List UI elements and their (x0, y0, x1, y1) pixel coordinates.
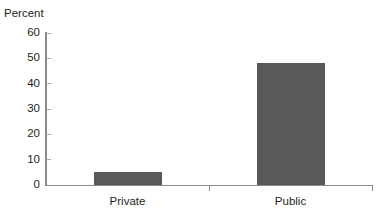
bar (257, 63, 325, 185)
x-tick-mark (209, 186, 210, 191)
y-tick-label: 20 (12, 128, 40, 140)
bar-chart: Percent 0102030405060 PrivatePublic (0, 0, 381, 220)
y-tick-label: 60 (12, 27, 40, 39)
x-tick-label: Public (231, 194, 351, 208)
bar (94, 172, 162, 185)
plot-area (46, 33, 372, 185)
y-tick-label: 10 (12, 154, 40, 166)
x-tick-label: Private (68, 194, 188, 208)
y-tick-label: 30 (12, 103, 40, 115)
y-tick-label: 50 (12, 52, 40, 64)
y-axis-title: Percent (4, 6, 44, 20)
x-tick-mark-end (372, 186, 373, 191)
y-tick-label: 40 (12, 78, 40, 90)
y-tick-label: 0 (12, 179, 40, 191)
